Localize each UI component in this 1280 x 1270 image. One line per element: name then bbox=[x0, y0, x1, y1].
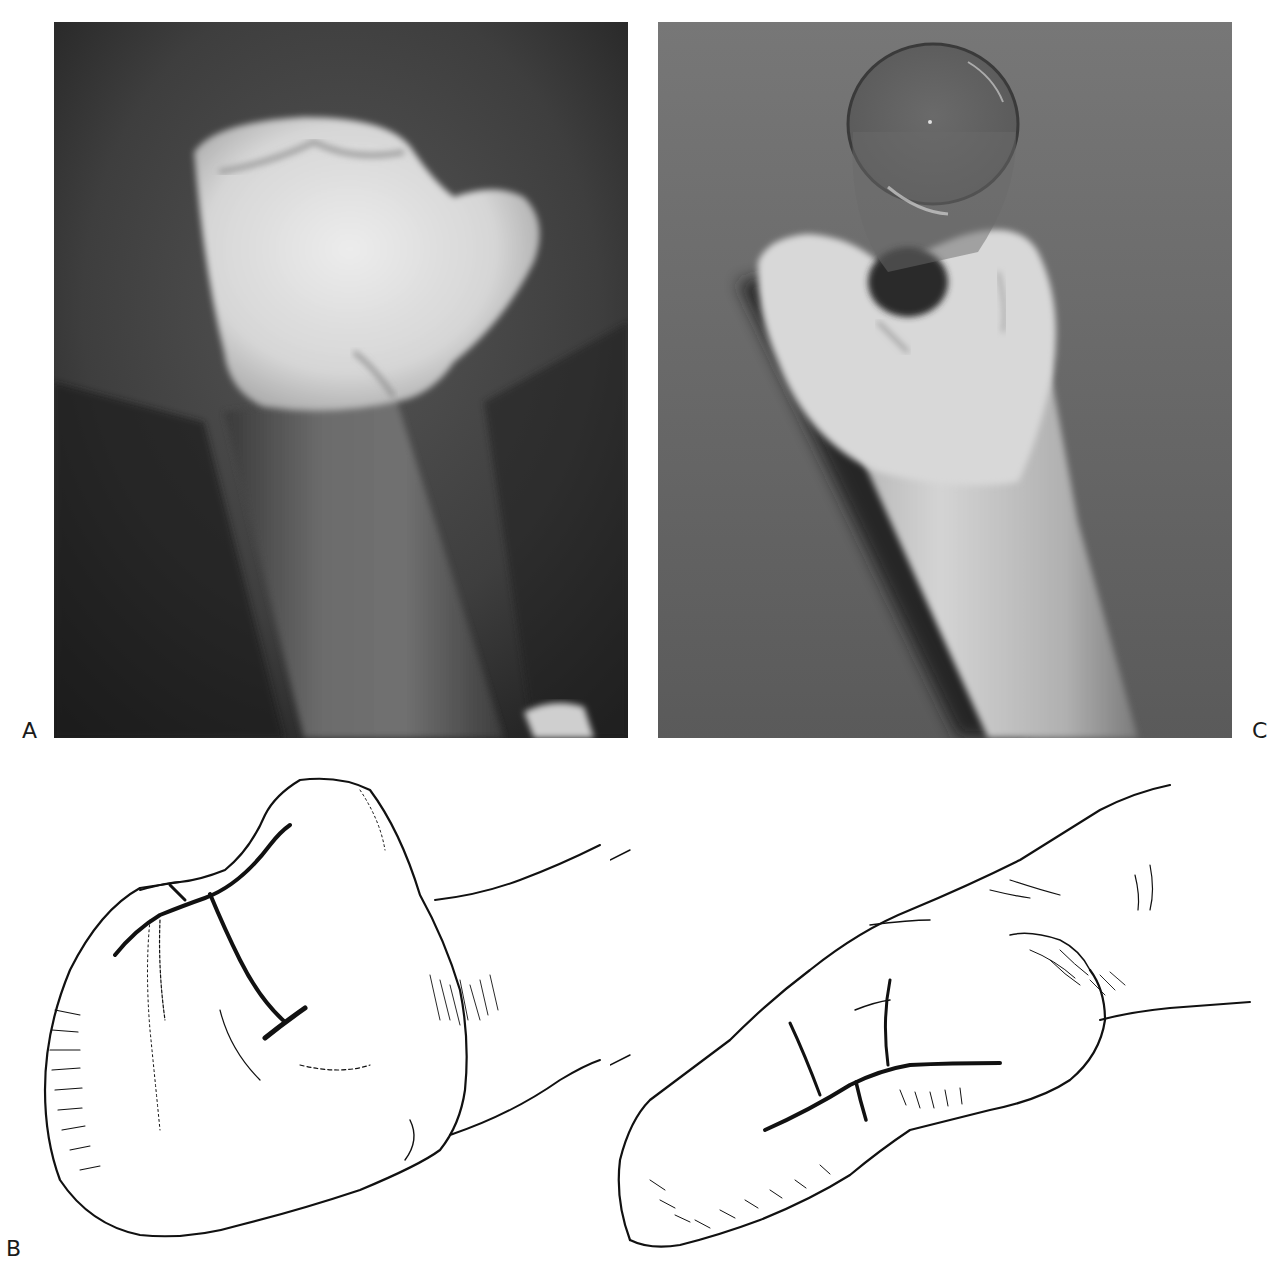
photo-c-image bbox=[658, 22, 1232, 738]
photo-a-image bbox=[54, 22, 628, 738]
photo-panel-a bbox=[54, 22, 628, 738]
panel-label-c: C bbox=[1252, 718, 1267, 743]
drawing-b-right-hand bbox=[610, 780, 1270, 1260]
photo-panel-c bbox=[658, 22, 1232, 738]
panel-label-a: A bbox=[22, 718, 37, 743]
medical-figure: A C B bbox=[0, 0, 1280, 1270]
drawing-b-left-hand bbox=[40, 770, 640, 1250]
panel-label-b: B bbox=[6, 1236, 21, 1261]
